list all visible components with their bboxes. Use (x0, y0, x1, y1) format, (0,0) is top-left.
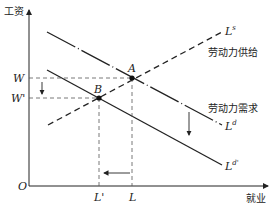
tick-w: W (13, 72, 26, 85)
origin-label: O (18, 180, 27, 193)
point-a (129, 75, 134, 80)
demand-curve-ld-prime (47, 70, 222, 165)
tick-l-prime: L' (93, 191, 104, 204)
tick-w-prime: W' (11, 92, 25, 105)
x-axis-label: 就业 (246, 192, 266, 204)
supply-curve-name: 劳动力供给 (208, 46, 258, 58)
supply-curve-label: Ls (224, 24, 236, 38)
y-axis-label: 工资 (4, 6, 24, 17)
point-b (96, 95, 101, 100)
demand-curve-name: 劳动力需求 (208, 102, 258, 114)
labor-market-diagram: 工资 就业 O W W' L' L A B Ls 劳动力供给 劳动力需求 Ld … (0, 0, 274, 211)
point-b-label: B (93, 83, 102, 96)
point-a-label: A (127, 62, 136, 75)
demand-shifted-curve-label: Ld' (224, 159, 239, 173)
tick-l: L (128, 191, 136, 204)
demand-curve-label: Ld (224, 119, 237, 133)
